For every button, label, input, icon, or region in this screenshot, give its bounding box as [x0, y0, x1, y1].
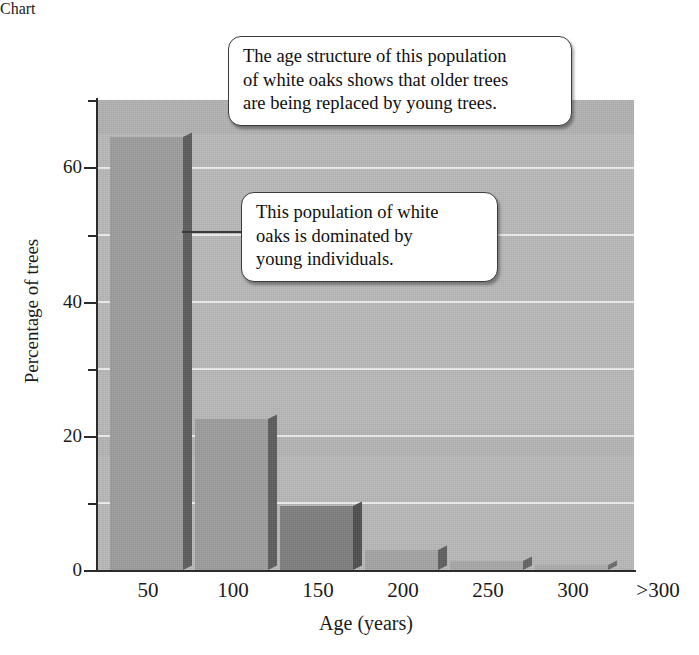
bar-face [195, 419, 268, 570]
bar-150 [280, 506, 353, 570]
callout-line: of white oaks shows that older trees [243, 69, 559, 93]
bar-face [450, 561, 523, 570]
figure-white-oak-age-structure: 60 40 20 0 Percentage of trees 50 100 15… [0, 0, 699, 655]
y-tick-label-60: 60 [36, 157, 82, 176]
bar-side-shadow [608, 561, 617, 570]
y-tick-20 [84, 436, 97, 438]
x-tick-label-250: 250 [443, 578, 533, 602]
y-tick-50 [88, 235, 97, 237]
bar-side-shadow [438, 546, 447, 570]
callout-line: The age structure of this population [243, 45, 559, 69]
plot-area [98, 100, 634, 570]
callout-age-structure: The age structure of this population of … [228, 36, 572, 126]
callout-line: are being replaced by young trees. [243, 92, 559, 116]
bar-side-shadow [523, 557, 532, 570]
y-tick-10 [88, 503, 97, 505]
bar-side-shadow [268, 415, 277, 570]
y-tick-label-20: 20 [36, 426, 82, 445]
bar-side-shadow [183, 133, 192, 570]
x-tick-label-100: 100 [188, 578, 278, 602]
y-axis-title: Percentage of trees [21, 211, 43, 411]
bar-100 [195, 419, 268, 570]
bar-face [110, 137, 183, 570]
bar-face [280, 506, 353, 570]
y-tick-40 [84, 302, 97, 304]
y-tick-70 [88, 100, 97, 102]
bar-200 [365, 550, 438, 570]
x-axis-line [96, 570, 636, 572]
bar-50 [110, 137, 183, 570]
x-tick-label-over-300: >300 [613, 578, 699, 602]
callout-young-dominance: This population of white oaks is dominat… [241, 192, 498, 282]
callout-leader-line [182, 231, 248, 233]
bar-side-shadow [353, 502, 362, 570]
x-tick-label-50: 50 [103, 578, 193, 602]
y-tick-30 [88, 369, 97, 371]
x-tick-label-200: 200 [358, 578, 448, 602]
y-tick-60 [84, 167, 97, 169]
y-tick-label-0: 0 [36, 560, 82, 579]
callout-line: oaks is dominated by [256, 225, 485, 249]
bar-250 [450, 561, 523, 570]
x-axis-title: Age (years) [98, 612, 634, 635]
callout-line: This population of white [256, 201, 485, 225]
bar-face [365, 550, 438, 570]
x-tick-label-150: 150 [273, 578, 363, 602]
callout-line: young individuals. [256, 248, 485, 272]
y-axis-line [96, 98, 98, 572]
y-tick-0 [84, 570, 97, 572]
x-tick-label-300: 300 [528, 578, 618, 602]
